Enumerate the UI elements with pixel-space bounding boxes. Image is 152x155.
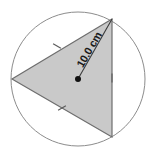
geometry-figure: 10.0 cm	[0, 0, 152, 155]
geometry-canvas: 10.0 cm	[0, 0, 152, 155]
circle-center-dot	[75, 76, 81, 82]
tick-upper-left-side	[53, 44, 61, 49]
